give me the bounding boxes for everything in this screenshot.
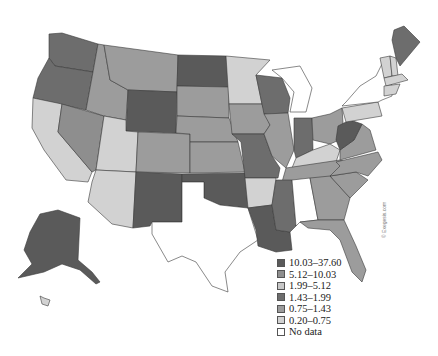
legend-swatch-icon (277, 293, 285, 301)
state-ks[interactable] (190, 142, 245, 173)
state-nm[interactable] (133, 172, 182, 228)
legend-item: No data (277, 326, 342, 338)
legend-swatch-icon (277, 259, 285, 267)
state-co[interactable] (136, 132, 190, 173)
map-legend: 10.03–37.60 5.12–10.03 1.99–5.12 1.43–1.… (277, 257, 342, 338)
legend-swatch-icon (277, 270, 285, 278)
legend-item: 0.75–1.43 (277, 303, 342, 315)
legend-swatch-icon (277, 305, 285, 313)
state-ak[interactable] (18, 210, 100, 284)
legend-item: 0.20–0.75 (277, 315, 342, 327)
state-ct-ri-nj-md-de[interactable] (384, 84, 400, 96)
legend-item: 1.43–1.99 (277, 292, 342, 304)
state-ar[interactable] (245, 178, 276, 208)
state-az[interactable] (88, 170, 136, 228)
legend-item: 1.99–5.12 (277, 280, 342, 292)
us-choropleth-map (0, 0, 438, 356)
state-wy[interactable] (126, 90, 177, 133)
legend-item: 5.12–10.03 (277, 269, 342, 281)
legend-swatch-icon (277, 328, 285, 336)
state-sd[interactable] (177, 86, 229, 118)
legend-swatch-icon (277, 282, 285, 290)
state-hi[interactable] (40, 296, 50, 306)
legend-item: 10.03–37.60 (277, 257, 342, 269)
legend-swatch-icon (277, 316, 285, 324)
copyright-credit: © Exegesis.com (381, 202, 387, 238)
state-nd[interactable] (177, 55, 229, 87)
